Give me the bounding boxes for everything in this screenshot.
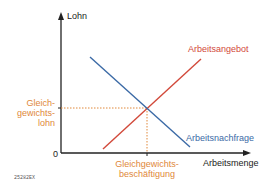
equilibrium-employment-label-line1: Gleichgewichts- <box>115 159 179 169</box>
y-axis-label: Lohn <box>67 11 87 21</box>
demand-curve <box>90 57 190 147</box>
equilibrium-employment-label-line2: beschäftigung <box>115 169 179 179</box>
equilibrium-wage-label-line3: lohn <box>17 118 55 128</box>
equilibrium-wage-label-line1: Gleich- <box>17 98 55 108</box>
demand-curve-label: Arbeitsnachfrage <box>186 133 254 143</box>
origin-label: 0 <box>53 149 58 159</box>
labor-market-diagram: Lohn Arbeitsmenge 0 Arbeitsangebot Arbei… <box>0 0 263 188</box>
equilibrium-employment-label: Gleichgewichts- beschäftigung <box>115 159 179 179</box>
x-axis-label: Arbeitsmenge <box>203 158 259 168</box>
supply-curve-label: Arbeitsangebot <box>188 44 249 54</box>
y-axis-arrow-icon <box>58 12 64 20</box>
x-axis-arrow-icon <box>243 150 251 156</box>
equilibrium-wage-label-line2: gewichts- <box>17 108 55 118</box>
image-code-label: 25282EX <box>14 173 35 183</box>
equilibrium-wage-label: Gleich- gewichts- lohn <box>17 98 55 128</box>
